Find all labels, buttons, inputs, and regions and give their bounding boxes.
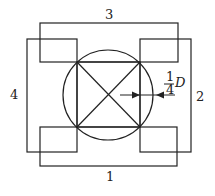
label-2: 2 bbox=[196, 89, 204, 104]
frame-3 bbox=[40, 23, 178, 62]
label-1: 1 bbox=[106, 169, 114, 184]
arrow-left-icon bbox=[156, 92, 164, 99]
arrow-right-icon bbox=[132, 92, 140, 99]
frame-4 bbox=[27, 39, 77, 152]
diagram-canvas: 1 4 D 3 1 4 2 bbox=[0, 0, 215, 196]
label-4: 4 bbox=[10, 87, 18, 102]
frame-1 bbox=[40, 127, 177, 166]
variable-d: D bbox=[174, 75, 186, 90]
diagram-svg: 1 4 D 3 1 4 2 bbox=[0, 0, 215, 196]
label-3: 3 bbox=[105, 7, 113, 22]
fraction-denominator: 4 bbox=[166, 82, 174, 97]
